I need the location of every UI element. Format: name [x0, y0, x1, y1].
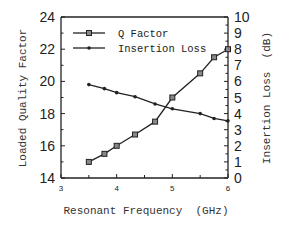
y-tick-label: 22: [39, 41, 55, 57]
dot-marker-icon: [212, 117, 216, 121]
legend-square-marker-icon: [87, 31, 92, 36]
q-factor-line: [89, 49, 228, 162]
square-marker-icon: [133, 132, 138, 137]
axis-ticks: [61, 17, 228, 178]
legend-q-factor-label: Q Factor: [118, 28, 168, 40]
y2-tick-label: 8: [234, 41, 242, 57]
y2-tick-label: 9: [234, 25, 242, 41]
square-marker-icon: [102, 151, 107, 156]
square-marker-icon: [153, 119, 158, 124]
square-marker-icon: [86, 159, 91, 164]
dot-marker-icon: [87, 83, 91, 87]
y2-tick-label: 3: [234, 122, 242, 138]
legend-dot-marker-icon: [87, 46, 91, 50]
dot-marker-icon: [115, 91, 119, 95]
y2-tick-label: 7: [234, 57, 242, 73]
y-tick-label: 18: [39, 106, 55, 122]
square-marker-icon: [226, 47, 231, 52]
y-axis-label: Loaded Quality Factor: [17, 29, 29, 168]
x-tick-label: 6: [226, 184, 231, 193]
dot-marker-icon: [198, 112, 202, 116]
y2-tick-label: 1: [234, 154, 242, 170]
dot-marker-icon: [133, 95, 137, 99]
dot-marker-icon: [171, 107, 175, 111]
plot-frame: [61, 17, 228, 178]
y2-tick-label: 4: [234, 106, 242, 122]
y2-axis-label: Insertion Loss (dB): [261, 32, 273, 164]
y-tick-label: 14: [39, 170, 55, 186]
y-tick-label: 24: [39, 9, 55, 25]
square-marker-icon: [170, 95, 175, 100]
x-axis-label: Resonant Frequency (GHz): [63, 205, 228, 217]
legend: Q Factor Insertion Loss: [73, 28, 206, 55]
y2-tick-label: 2: [234, 138, 242, 154]
y2-tick-label: 0: [234, 170, 242, 186]
square-marker-icon: [198, 71, 203, 76]
y-tick-label: 16: [39, 138, 55, 154]
y-tick-label: 20: [39, 73, 55, 89]
dot-marker-icon: [153, 102, 157, 106]
x-tick-label: 4: [114, 184, 119, 193]
x-tick-label: 3: [59, 184, 64, 193]
dual-axis-line-chart: 1416182022240123456789103456 Q Factor In…: [0, 0, 287, 225]
square-marker-icon: [212, 55, 217, 60]
x-tick-label: 5: [170, 184, 175, 193]
y2-tick-label: 6: [234, 73, 242, 89]
dot-marker-icon: [103, 87, 107, 91]
y2-tick-label: 5: [234, 90, 242, 106]
square-marker-icon: [114, 143, 119, 148]
dot-marker-icon: [226, 119, 230, 123]
data-series: [86, 47, 230, 165]
insertion-loss-line: [89, 85, 228, 121]
legend-insertion-loss-label: Insertion Loss: [118, 43, 206, 55]
y2-tick-label: 10: [234, 9, 250, 25]
